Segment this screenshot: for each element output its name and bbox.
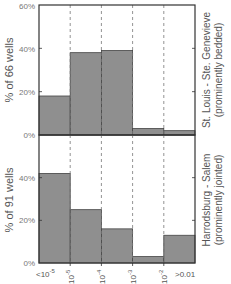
xtick-gt-0.01: >0.01 xyxy=(175,270,196,279)
bar-4 xyxy=(133,257,164,263)
bar-5 xyxy=(164,131,195,135)
histogram-chart: 60% 40% 20% 0% 40% 20% 0% % of 66 wells … xyxy=(0,0,231,284)
xtick-1e-5: 10-5 xyxy=(65,269,76,284)
ytick-top-20: 20% xyxy=(19,88,35,97)
ylabel-top: % of 66 wells xyxy=(3,37,15,102)
bar-1 xyxy=(39,96,70,135)
bar-4 xyxy=(133,129,164,136)
top-panel xyxy=(39,5,195,135)
side-label-bottom-line1: Harrodsburg - Salem xyxy=(201,154,212,247)
ytick-bottom-20: 20% xyxy=(19,216,35,225)
bottom-panel xyxy=(39,135,195,266)
side-label-top-line1: St. Louis - Ste. Genevieve xyxy=(201,11,212,128)
bar-3 xyxy=(101,51,132,136)
bar-5 xyxy=(164,235,195,263)
ytick-top-40: 40% xyxy=(19,45,35,54)
ytick-bottom-0: 0% xyxy=(23,259,35,268)
xtick-1e-3: 10-3 xyxy=(127,269,138,284)
ytick-top-60: 60% xyxy=(19,2,35,11)
bar-2 xyxy=(70,210,101,263)
xtick-1e-4: 10-4 xyxy=(96,269,107,284)
xtick-1e-2: 10-2 xyxy=(158,269,169,284)
xtick-lt-1e-5: <10-5 xyxy=(36,268,56,279)
bar-3 xyxy=(101,229,132,263)
bar-2 xyxy=(70,53,101,135)
ytick-bottom-40: 40% xyxy=(19,174,35,183)
ylabel-bottom: % of 91 wells xyxy=(3,167,15,232)
side-label-top-line2: (prominently bedded) xyxy=(213,23,224,118)
side-label-bottom-line2: (prominently jointed) xyxy=(213,155,224,246)
ytick-top-0: 0% xyxy=(23,131,35,140)
bar-1 xyxy=(39,173,70,263)
